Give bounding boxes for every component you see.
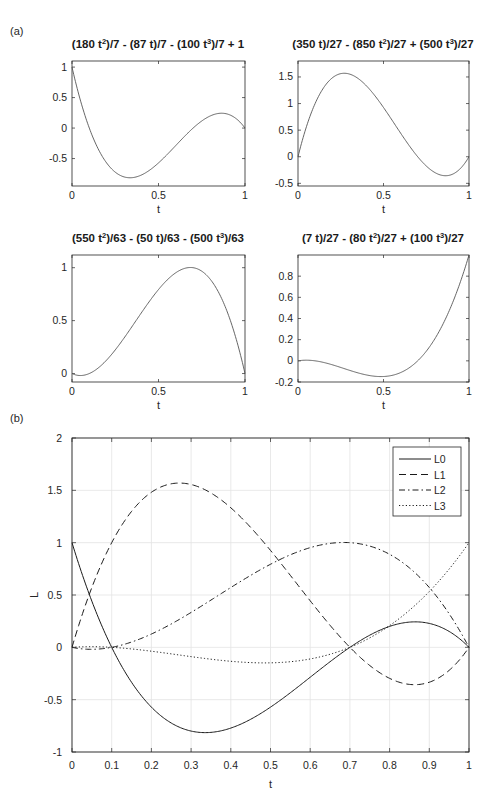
x-tick-label: 0 [295,385,301,397]
y-tick-label: -0.5 [275,177,293,189]
y-tick-label: 0.8 [278,270,293,282]
panel-label-a: (a) [10,25,23,37]
x-axis-label: t [382,203,385,215]
y-tick-label: 0.5 [47,589,62,601]
y-tick-label: 2 [56,432,62,444]
y-tick-label: 0 [56,641,62,653]
y-tick-label: -0.5 [49,152,67,164]
figure-canvas: (a)(b)(180 t2)/7 - (87 t)/7 - (100 t3)/7… [0,0,490,801]
x-tick-label: 0.3 [184,759,199,771]
x-tick-label: 0 [295,189,301,201]
legend-entry-L1: L1 [434,469,446,481]
y-tick-label: 1 [61,261,67,273]
x-axis-label: t [157,203,160,215]
x-axis-label: t [269,778,272,790]
x-tick-label: 0.8 [382,759,397,771]
x-tick-label: 0 [69,189,75,201]
y-tick-label: -0.5 [44,694,62,706]
y-tick-label: 0.5 [52,314,67,326]
subplot-L1: (350 t)/27 - (850 t2)/27 + (500 t3)/2700… [275,37,474,216]
y-tick-label: 0.2 [278,333,293,345]
x-tick-label: 0.6 [303,759,318,771]
axes-box [298,255,469,382]
x-tick-label: 0.9 [422,759,437,771]
curve-L1 [298,73,469,175]
y-tick-label: 1.5 [47,484,62,496]
x-tick-label: 0.7 [343,759,358,771]
x-tick-label: 0.5 [151,385,166,397]
y-tick-label: 1 [61,61,67,73]
x-tick-label: 0.5 [376,385,391,397]
y-axis-label: L [28,592,40,598]
y-tick-label: 0.4 [278,312,293,324]
x-tick-label: 0.5 [151,189,166,201]
y-tick-label: -1 [53,746,62,758]
x-axis-label: t [157,399,160,411]
subplot-title: (350 t)/27 - (850 t2)/27 + (500 t3)/27 [292,37,473,51]
combined-plot: 00.10.20.30.40.50.60.70.80.9121.510.50-0… [28,432,472,790]
y-tick-label: 0 [287,354,293,366]
legend: L0L1L2L3 [393,447,461,516]
subplot-L3: (7 t)/27 - (80 t2)/27 + (100 t3)/2700.51… [275,231,472,412]
subplot-L0: (180 t2)/7 - (87 t)/7 - (100 t3)/7 + 100… [49,37,248,216]
y-tick-label: 0.6 [278,291,293,303]
legend-entry-L0: L0 [434,453,446,465]
y-tick-label: -0.2 [275,376,293,388]
curve-L2 [72,268,245,376]
x-tick-label: 1 [466,759,472,771]
x-tick-label: 0.1 [104,759,119,771]
x-tick-label: 0 [69,759,75,771]
y-tick-label: 1 [287,97,293,109]
subplot-L2: (550 t2)/63 - (50 t)/63 - (500 t3)/6300.… [52,231,248,412]
axes-box [72,255,245,382]
x-tick-label: 1 [466,385,472,397]
y-tick-label: 0 [61,367,67,379]
x-axis-label: t [382,399,385,411]
x-tick-label: 0 [69,385,75,397]
x-tick-label: 0.5 [376,189,391,201]
axes-box [72,61,245,186]
x-tick-label: 0.5 [263,759,278,771]
y-tick-label: 0.5 [52,91,67,103]
subplot-title: (7 t)/27 - (80 t2)/27 + (100 t3)/27 [302,231,464,245]
y-tick-label: 1.5 [278,70,293,82]
x-tick-label: 0.2 [144,759,159,771]
y-tick-label: 0.5 [278,124,293,136]
subplot-title: (180 t2)/7 - (87 t)/7 - (100 t3)/7 + 1 [72,37,245,51]
y-tick-label: 1 [56,537,62,549]
x-tick-label: 0.4 [223,759,238,771]
y-tick-label: 0 [287,150,293,162]
x-tick-label: 1 [466,189,472,201]
panel-label-b: (b) [10,412,23,424]
y-tick-label: 0 [61,122,67,134]
legend-entry-L2: L2 [434,484,446,496]
x-tick-label: 1 [242,385,248,397]
axes-box [298,61,469,186]
x-tick-label: 1 [242,189,248,201]
subplot-title: (550 t2)/63 - (50 t)/63 - (500 t3)/63 [72,231,244,245]
curve-L3 [298,255,469,377]
legend-entry-L3: L3 [434,500,446,512]
curve-L0 [72,67,245,178]
